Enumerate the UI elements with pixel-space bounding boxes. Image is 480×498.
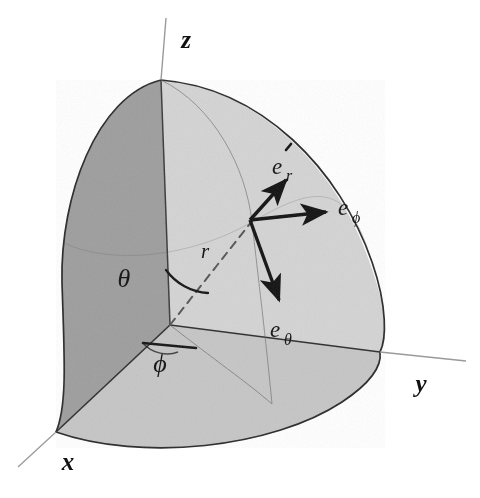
figure-root: z y x θ ϕ r e r e ϕ e θ	[0, 0, 480, 498]
y-axis-label: y	[412, 370, 427, 397]
spherical-coordinates-diagram: z y x θ ϕ r e r e ϕ e θ	[0, 0, 480, 498]
paper-grain	[56, 80, 384, 448]
z-axis-label: z	[180, 26, 191, 53]
x-axis-label: x	[61, 448, 75, 475]
